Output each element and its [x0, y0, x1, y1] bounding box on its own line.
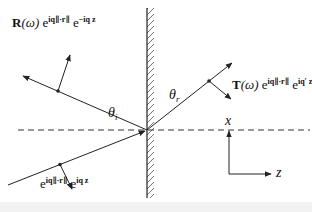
- transmission-coefficient: T: [232, 77, 241, 92]
- diagram-canvas: R(ω) eiq∥·r∥ e−iq z T(ω) eiq∥·r∥ eiq′ z …: [0, 0, 312, 212]
- exponent-parallel: iq∥·r∥: [268, 77, 289, 86]
- theta-subscript: i: [115, 112, 118, 122]
- interface-wall: [147, 8, 154, 198]
- x-axis-label: x: [225, 114, 231, 128]
- reflected-ray: [23, 55, 147, 130]
- transmitted-ray: [147, 63, 232, 130]
- angle-refracted-label: θr: [169, 88, 179, 106]
- z-axis-label: z: [276, 166, 281, 180]
- omega-arg: (ω): [241, 77, 259, 92]
- reflection-coefficient: R: [12, 15, 21, 30]
- exponent-z: iq z: [76, 176, 88, 185]
- reflected-wave-label: R(ω) eiq∥·r∥ e−iq z: [12, 16, 95, 30]
- theta-symbol: θ: [169, 87, 176, 102]
- exponent-z: iq′ z: [298, 77, 312, 86]
- coordinate-axes: [229, 131, 271, 174]
- angle-incident-label: θi: [108, 106, 117, 124]
- incident-wave-label: eiq∥·r∥ eiq z: [40, 177, 88, 191]
- omega-arg: (ω): [21, 15, 39, 30]
- bottom-strip: [0, 202, 312, 212]
- exponent-parallel: iq∥·r∥: [46, 176, 67, 185]
- exponent-z: −iq z: [79, 15, 96, 24]
- exponent-parallel: iq∥·r∥: [48, 15, 69, 24]
- theta-subscript: r: [176, 94, 180, 104]
- theta-symbol: θ: [108, 105, 115, 120]
- transmitted-wave-label: T(ω) eiq∥·r∥ eiq′ z: [232, 78, 312, 92]
